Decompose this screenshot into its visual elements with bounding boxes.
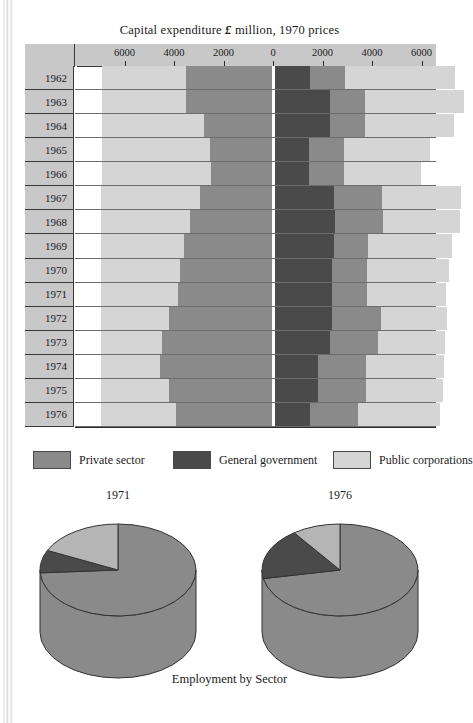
legend-item-general-government: General government — [173, 450, 317, 470]
year-label-cell: 1971 — [25, 283, 74, 307]
plot-left-border — [75, 66, 77, 89]
pie-year-label-right: 1976 — [240, 488, 440, 503]
axis-tick-label: 0 — [253, 47, 293, 58]
year-label: 1970 — [45, 264, 67, 276]
year-label-cell: 1976 — [25, 403, 74, 427]
bar-chart-row: 1974 — [25, 355, 436, 379]
bar-segment-right-public-corporations — [382, 186, 461, 209]
bar-segment-left-public-corporations — [102, 138, 210, 161]
bar-segment-right-private-sector — [310, 403, 358, 426]
pie-charts-container: 1971 1976 — [0, 488, 459, 688]
pie-graphic-right — [240, 504, 440, 683]
row-plot-area — [75, 403, 436, 427]
bar-segment-right-public-corporations — [366, 379, 443, 402]
bar-chart-row: 1967 — [25, 186, 436, 210]
row-plot-area — [75, 138, 436, 162]
plot-left-border — [75, 90, 77, 113]
bar-segment-left-private-sector — [184, 234, 273, 257]
legend-label: Private sector — [79, 453, 145, 468]
bar-segment-right-general-government — [273, 355, 318, 378]
year-label-cell: 1963 — [25, 90, 74, 114]
bar-segment-right-private-sector — [330, 331, 378, 354]
row-plot-area — [75, 283, 436, 307]
bar-segment-right-public-corporations — [366, 355, 444, 378]
bar-segment-right-private-sector — [334, 234, 369, 257]
bar-segment-left-private-sector — [200, 186, 273, 209]
bar-segment-left-public-corporations — [102, 90, 186, 113]
year-label-cell: 1968 — [25, 210, 74, 234]
legend-item-private-sector: Private sector — [33, 450, 145, 470]
year-label-cell: 1965 — [25, 138, 74, 162]
bar-segment-right-private-sector — [318, 379, 366, 402]
row-plot-area — [75, 307, 436, 331]
bar-segment-left-private-sector — [190, 210, 273, 233]
bar-segment-left-private-sector — [178, 283, 273, 306]
legend-swatch — [333, 451, 371, 469]
pie-svg-1976 — [240, 504, 440, 679]
bar-segment-left-public-corporations — [101, 331, 162, 354]
plot-left-border — [75, 186, 77, 209]
chart-legend: Private sectorGeneral governmentPublic c… — [25, 450, 436, 472]
legend-swatch — [173, 451, 211, 469]
bar-chart-row: 1969 — [25, 234, 436, 258]
bar-segment-right-general-government — [273, 186, 334, 209]
bar-segment-left-private-sector — [162, 331, 273, 354]
bar-rows-container: 1962196319641965196619671968196919701971… — [25, 66, 436, 427]
row-plot-area — [75, 114, 436, 138]
row-plot-area — [75, 66, 436, 90]
year-label-cell: 1972 — [25, 307, 74, 331]
bar-chart-row: 1968 — [25, 210, 436, 234]
bar-segment-left-public-corporations — [101, 259, 180, 282]
axis-tick-label: 2000 — [204, 47, 244, 58]
bar-segment-right-general-government — [273, 259, 332, 282]
axis-tick-label: 2000 — [303, 47, 343, 58]
bar-segment-left-private-sector — [210, 138, 273, 161]
bar-chart-row: 1963 — [25, 90, 436, 114]
bar-segment-right-general-government — [273, 403, 310, 426]
bar-segment-left-private-sector — [186, 90, 273, 113]
row-plot-area — [75, 331, 436, 355]
bar-chart-row: 1970 — [25, 259, 436, 283]
plot-left-border — [75, 331, 77, 354]
year-label: 1967 — [45, 192, 67, 204]
bar-segment-right-public-corporations — [344, 162, 422, 185]
year-label-cell: 1970 — [25, 259, 74, 283]
bar-segment-left-private-sector — [169, 379, 273, 402]
bar-segment-right-public-corporations — [383, 210, 460, 233]
bar-segment-left-private-sector — [160, 355, 273, 378]
pie-year-label-left: 1971 — [18, 488, 218, 503]
bar-segment-right-general-government — [273, 234, 334, 257]
plot-left-border — [75, 403, 77, 426]
axis-corner-cell — [25, 44, 75, 66]
legend-swatch — [33, 451, 71, 469]
bar-segment-left-private-sector — [186, 66, 273, 89]
row-plot-area — [75, 379, 436, 403]
plot-left-border — [75, 138, 77, 161]
title-currency-symbol: £ — [225, 23, 231, 37]
bar-segment-left-public-corporations — [101, 283, 178, 306]
year-label: 1971 — [45, 288, 67, 300]
zero-axis-line — [272, 90, 275, 113]
year-label: 1976 — [45, 408, 67, 420]
zero-axis-line — [272, 210, 275, 233]
bar-segment-right-general-government — [273, 307, 332, 330]
year-label: 1975 — [45, 384, 67, 396]
zero-axis-line — [272, 114, 275, 137]
page-title: Capital expenditure £ million, 1970 pric… — [0, 23, 459, 38]
bar-segment-left-public-corporations — [102, 162, 211, 185]
zero-axis-line — [272, 331, 275, 354]
bar-segment-right-public-corporations — [368, 234, 452, 257]
zero-axis-line — [272, 283, 275, 306]
bar-chart-row: 1964 — [25, 114, 436, 138]
row-plot-area — [75, 234, 436, 258]
axis-baseline — [75, 427, 436, 428]
bar-segment-right-public-corporations — [358, 403, 440, 426]
year-label: 1969 — [45, 240, 67, 252]
bar-chart-row: 1976 — [25, 403, 436, 427]
pie-svg-1971 — [18, 504, 218, 679]
zero-axis-line — [272, 355, 275, 378]
axis-tick-label: 4000 — [352, 47, 392, 58]
year-label-cell: 1975 — [25, 379, 74, 403]
pie-chart-1976: 1976 — [240, 488, 440, 678]
